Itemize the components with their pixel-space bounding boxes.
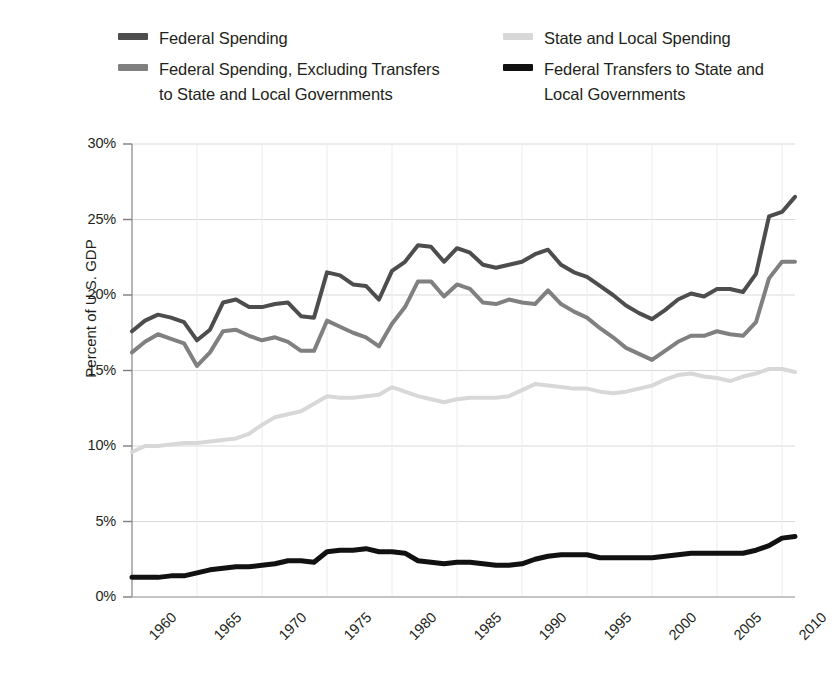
series-line-3	[132, 537, 795, 578]
y-tick-label: 5%	[64, 513, 116, 529]
gridlines	[132, 144, 795, 597]
tick-marks	[123, 144, 132, 597]
y-tick-label: 15%	[64, 362, 116, 378]
data-series	[132, 197, 795, 578]
y-tick-label: 30%	[64, 135, 116, 151]
y-tick-label: 20%	[64, 286, 116, 302]
y-tick-label: 0%	[64, 588, 116, 604]
y-tick-label: 25%	[64, 211, 116, 227]
series-line-2	[132, 369, 795, 452]
y-tick-label: 10%	[64, 437, 116, 453]
chart-container: Federal Spending Federal Spending, Exclu…	[0, 0, 840, 677]
plot-svg	[0, 0, 840, 677]
series-line-1	[132, 262, 795, 366]
series-line-0	[132, 197, 795, 340]
plot-area: Percent of U.S. GDP 30%25%20%15%10%5%0% …	[0, 0, 840, 677]
